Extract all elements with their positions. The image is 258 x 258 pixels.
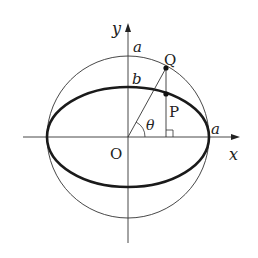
circle-radius-label-top: a [133, 38, 142, 56]
angle-theta-label: θ [146, 117, 155, 133]
circle-radius-label-right: a [211, 120, 220, 138]
y-axis-arrow-icon [125, 23, 131, 32]
x-axis-arrow-icon [231, 134, 240, 140]
point-p [163, 91, 168, 96]
semi-minor-label: b [132, 70, 142, 88]
ellipse-diagram: y x a b a Q P O θ [0, 0, 258, 258]
y-axis-label: y [111, 19, 122, 38]
right-angle-mark [166, 130, 173, 137]
point-p-label: P [169, 103, 179, 121]
point-q-label: Q [164, 51, 176, 69]
origin-label: O [110, 145, 122, 163]
angle-arc [136, 122, 145, 137]
x-axis-label: x [229, 145, 238, 164]
